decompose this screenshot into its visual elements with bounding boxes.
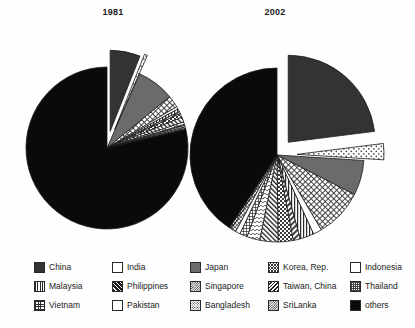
legend-row: VietnamPakistanBangladeshSriLankaothers — [34, 296, 384, 315]
legend-label: Japan — [205, 263, 228, 272]
legend-swatch-icon — [190, 262, 201, 273]
legend-swatch-icon — [190, 281, 201, 292]
legend-item-others[interactable]: others — [350, 300, 415, 311]
legend-item-indonesia[interactable]: Indonesia — [350, 262, 415, 273]
legend-swatch-icon — [268, 300, 279, 311]
legend-label: China — [49, 263, 71, 272]
legend-swatch-icon — [112, 262, 123, 273]
legend-row: ChinaIndiaJapanKorea, Rep.Indonesia — [34, 258, 384, 277]
legend-swatch-icon — [350, 281, 361, 292]
legend-item-srilanka[interactable]: SriLanka — [268, 300, 350, 311]
legend-label: Korea, Rep. — [283, 263, 328, 272]
legend-item-malaysia[interactable]: Malaysia — [34, 281, 112, 292]
legend-item-japan[interactable]: Japan — [190, 262, 268, 273]
legend-item-korea-rep[interactable]: Korea, Rep. — [268, 262, 350, 273]
legend-item-india[interactable]: India — [112, 262, 190, 273]
legend-label: Bangladesh — [205, 301, 250, 310]
legend-swatch-icon — [268, 262, 279, 273]
pie-1981 — [26, 50, 188, 229]
legend-swatch-icon — [34, 262, 45, 273]
pie-chart-canvas — [0, 0, 415, 250]
pie-2002 — [190, 55, 384, 242]
legend-swatch-icon — [112, 281, 123, 292]
legend-swatch-icon — [350, 262, 361, 273]
chart-title-1981: 1981 — [83, 7, 143, 17]
legend-swatch-icon — [34, 281, 45, 292]
legend-swatch-icon — [350, 300, 361, 311]
legend-swatch-icon — [190, 300, 201, 311]
legend-item-pakistan[interactable]: Pakistan — [112, 300, 190, 311]
legend-label: Singapore — [205, 282, 244, 291]
legend-item-singapore[interactable]: Singapore — [190, 281, 268, 292]
legend-label: Pakistan — [127, 301, 160, 310]
figure-root: 1981 2002 ChinaIndiaJapanKorea, Rep.Indo… — [0, 0, 415, 328]
legend-label: Philippines — [127, 282, 168, 291]
legend-item-philippines[interactable]: Philippines — [112, 281, 190, 292]
legend-item-taiwan-china[interactable]: Taiwan, China — [268, 281, 350, 292]
legend-label: India — [127, 263, 145, 272]
legend-label: SriLanka — [283, 301, 317, 310]
legend-label: Vietnam — [49, 301, 80, 310]
legend-swatch-icon — [112, 300, 123, 311]
legend-label: Thailand — [365, 282, 398, 291]
legend-item-china[interactable]: China — [34, 262, 112, 273]
legend-item-thailand[interactable]: Thailand — [350, 281, 415, 292]
legend-label: Indonesia — [365, 263, 402, 272]
legend-item-bangladesh[interactable]: Bangladesh — [190, 300, 268, 311]
chart-title-2002: 2002 — [245, 7, 305, 17]
legend-label: others — [365, 301, 389, 310]
legend: ChinaIndiaJapanKorea, Rep.IndonesiaMalay… — [34, 258, 384, 315]
legend-label: Taiwan, China — [283, 282, 336, 291]
legend-swatch-icon — [268, 281, 279, 292]
legend-swatch-icon — [34, 300, 45, 311]
legend-row: MalaysiaPhilippinesSingaporeTaiwan, Chin… — [34, 277, 384, 296]
legend-item-vietnam[interactable]: Vietnam — [34, 300, 112, 311]
legend-label: Malaysia — [49, 282, 83, 291]
pie-slice-china[interactable] — [288, 55, 374, 142]
